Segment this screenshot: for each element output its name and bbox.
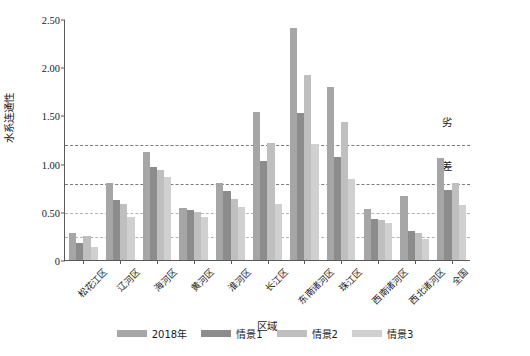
y-tick-label: 2.50 [42, 15, 60, 26]
bar[interactable] [364, 209, 371, 260]
water-connectivity-bar-chart: 水系连通性 00.501.001.502.002.50 劣差中良优 松花江区辽河… [0, 0, 530, 356]
bar[interactable] [378, 220, 385, 260]
bar-group [433, 20, 470, 260]
bar[interactable] [253, 112, 260, 260]
bar[interactable] [187, 210, 194, 260]
bar[interactable] [408, 231, 415, 260]
bar[interactable] [452, 183, 459, 260]
plot-area: 00.501.001.502.002.50 劣差中良优 [64, 20, 470, 261]
x-axis-label: 全国 [448, 265, 471, 288]
bar-group [249, 20, 286, 260]
x-label-cell: 珠江区 [322, 263, 359, 323]
legend-item[interactable]: 情景3 [352, 326, 413, 341]
bar-group [139, 20, 176, 260]
x-label-cell: 松花江区 [64, 263, 101, 323]
bar-group [360, 20, 397, 260]
y-axis-title: 水系连通性 [1, 93, 16, 143]
bar-group [65, 20, 102, 260]
bar[interactable] [143, 152, 150, 260]
bar[interactable] [216, 183, 223, 260]
legend-label: 情景3 [387, 326, 413, 341]
bar[interactable] [120, 204, 127, 260]
bar[interactable] [238, 207, 245, 260]
legend-item[interactable]: 2018年 [117, 326, 187, 341]
bar-group [323, 20, 360, 260]
bar[interactable] [113, 200, 120, 260]
chart-legend: 2018年情景1情景2情景3 [0, 326, 530, 341]
legend-label: 2018年 [152, 326, 187, 341]
y-tick-label: 0 [55, 256, 60, 267]
bar-group [286, 20, 323, 260]
bar[interactable] [341, 122, 348, 260]
bar[interactable] [415, 233, 422, 260]
bar[interactable] [106, 183, 113, 260]
y-tick-mark [61, 261, 65, 262]
x-axis-labels: 松花江区辽河区海河区黄河区淮河区长江区东南诸河区珠江区西南诸河区西北诸河区全国 [64, 263, 470, 323]
bar[interactable] [194, 212, 201, 260]
bar[interactable] [348, 179, 355, 260]
bar-groups [65, 20, 470, 260]
bar[interactable] [422, 239, 429, 260]
bar[interactable] [334, 157, 341, 260]
bar-group [102, 20, 139, 260]
bar[interactable] [150, 167, 157, 261]
bar[interactable] [327, 87, 334, 260]
bar[interactable] [157, 170, 164, 260]
bar[interactable] [201, 217, 208, 260]
legend-swatch [201, 330, 231, 337]
bar[interactable] [223, 191, 230, 260]
bar[interactable] [275, 204, 282, 260]
bar[interactable] [304, 75, 311, 260]
bar[interactable] [297, 113, 304, 260]
x-label-cell: 辽河区 [101, 263, 138, 323]
bar-group [396, 20, 433, 260]
bar[interactable] [267, 143, 274, 260]
x-label-cell: 西北诸河区 [396, 263, 433, 323]
y-tick-label: 0.50 [42, 207, 60, 218]
bar[interactable] [127, 217, 134, 260]
bar[interactable] [76, 243, 83, 260]
bar[interactable] [231, 199, 238, 260]
bar[interactable] [311, 144, 318, 260]
bar[interactable] [83, 236, 90, 260]
x-label-cell: 黄河区 [175, 263, 212, 323]
x-label-cell: 全国 [433, 263, 470, 323]
legend-swatch [277, 330, 307, 337]
legend-swatch [117, 330, 147, 337]
x-label-cell: 海河区 [138, 263, 175, 323]
bar[interactable] [400, 196, 407, 260]
y-tick-label: 2.00 [42, 63, 60, 74]
bar[interactable] [91, 247, 98, 260]
bar[interactable] [459, 205, 466, 260]
bar[interactable] [290, 28, 297, 260]
bar[interactable] [437, 158, 444, 260]
bar-group [175, 20, 212, 260]
bar[interactable] [69, 233, 76, 260]
bar[interactable] [260, 161, 267, 260]
bar[interactable] [164, 177, 171, 260]
x-label-cell: 东南诸河区 [285, 263, 322, 323]
x-label-cell: 长江区 [249, 263, 286, 323]
bar[interactable] [385, 223, 392, 260]
bar-group [212, 20, 249, 260]
legend-label: 情景1 [236, 326, 262, 341]
x-label-cell: 西南诸河区 [359, 263, 396, 323]
legend-item[interactable]: 情景1 [201, 326, 262, 341]
bar[interactable] [444, 190, 451, 260]
legend-label: 情景2 [312, 326, 338, 341]
x-label-cell: 淮河区 [212, 263, 249, 323]
bar[interactable] [371, 219, 378, 260]
legend-item[interactable]: 情景2 [277, 326, 338, 341]
bar[interactable] [179, 208, 186, 260]
legend-swatch [352, 330, 382, 337]
y-tick-label: 1.50 [42, 111, 60, 122]
y-tick-label: 1.00 [42, 159, 60, 170]
